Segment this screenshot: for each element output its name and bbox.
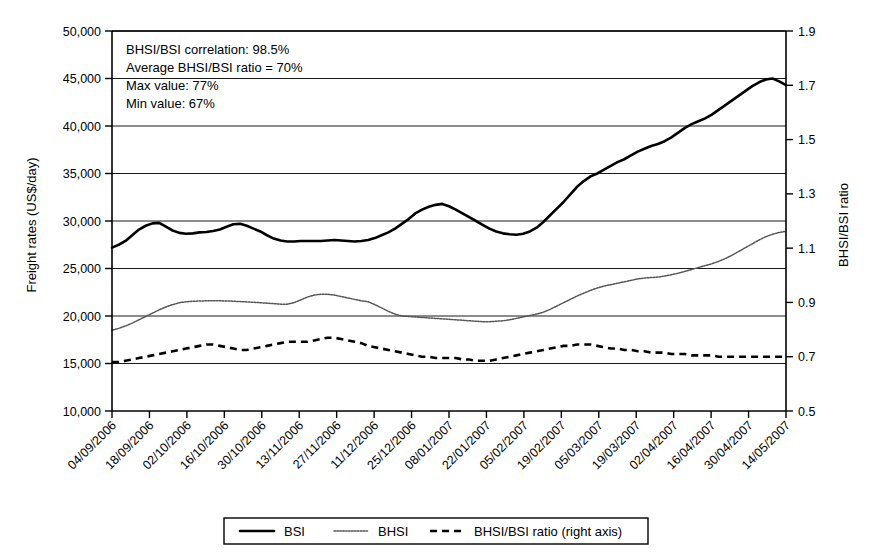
y2-tick-label: 0.9 — [798, 296, 815, 310]
y-tick-label: 45,000 — [63, 72, 101, 86]
data-series — [112, 79, 786, 363]
y-tick-label: 25,000 — [63, 262, 101, 276]
y-tick-label: 35,000 — [63, 167, 101, 181]
y-tick-label: 40,000 — [63, 120, 101, 134]
chart-legend: BSIBHSIBHSI/BSI ratio (right axis) — [224, 518, 648, 544]
y2-tick-label: 1.5 — [798, 133, 815, 147]
y-tick-label: 20,000 — [63, 310, 101, 324]
annotation-line: BHSI/BSI correlation: 98.5% — [126, 42, 290, 57]
y-tick-label: 30,000 — [63, 215, 101, 229]
y-tick-label: 10,000 — [63, 405, 101, 419]
y-tick-label: 15,000 — [63, 357, 101, 371]
y-tick-label: 50,000 — [63, 25, 101, 39]
y2-tick-label: 1.3 — [798, 187, 815, 201]
annotation-line: Max value: 77% — [126, 78, 219, 93]
y2-tick-label: 0.7 — [798, 350, 815, 364]
legend-label-bhsi: BHSI — [378, 524, 408, 539]
series-line-bhsi — [112, 231, 786, 330]
y2-tick-label: 1.1 — [798, 242, 815, 256]
y2-tick-label: 1.7 — [798, 79, 815, 93]
annotation-block: BHSI/BSI correlation: 98.5%Average BHSI/… — [126, 42, 303, 111]
legend-label-ratio: BHSI/BSI ratio (right axis) — [474, 524, 622, 539]
y2-axis-title: BHSI/BSI ratio — [836, 183, 851, 267]
annotation-line: Min value: 67% — [126, 96, 215, 111]
chart-container: 10,00015,00020,00025,00030,00035,00040,0… — [0, 0, 872, 558]
y-axis-title: Freight rates (US$/day) — [24, 157, 39, 292]
y2-tick-label: 0.5 — [798, 405, 815, 419]
legend-label-bsi: BSI — [284, 524, 305, 539]
y2-tick-label: 1.9 — [798, 25, 815, 39]
series-line-bhsi — [112, 338, 786, 362]
freight-rates-chart: 10,00015,00020,00025,00030,00035,00040,0… — [0, 0, 872, 558]
annotation-line: Average BHSI/BSI ratio = 70% — [126, 60, 303, 75]
